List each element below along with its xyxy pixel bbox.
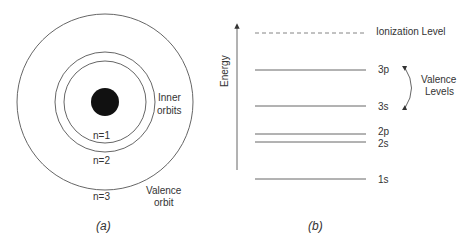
valence-orbit-label-line2: orbit: [154, 197, 174, 208]
diagram-canvas: n=1 n=2 n=3 Inner orbits Valence orbit (…: [0, 0, 469, 244]
level-3p-label: 3p: [378, 64, 390, 75]
caption-a: (a): [96, 219, 111, 233]
energy-axis-label: Energy: [219, 55, 230, 87]
inner-orbits-label-line1: Inner: [158, 92, 181, 103]
level-3s-label: 3s: [378, 101, 389, 112]
inner-orbits-label-line2: orbits: [157, 105, 181, 116]
caption-b: (b): [308, 219, 323, 233]
atom-diagram: n=1 n=2 n=3 Inner orbits Valence orbit (…: [17, 14, 193, 233]
orbit-label-n1: n=1: [93, 130, 110, 141]
valence-orbit-label-line1: Valence: [146, 185, 182, 196]
level-2p-label: 2p: [378, 126, 390, 137]
ionization-level-label: Ionization Level: [376, 26, 446, 37]
nucleus: [91, 88, 119, 116]
level-2s-label: 2s: [378, 138, 389, 149]
level-1s-label: 1s: [378, 174, 389, 185]
valence-levels-label-line2: Levels: [425, 86, 454, 97]
energy-level-diagram: Energy Ionization Level 3p 3s 2p 2s 1s V…: [219, 26, 457, 233]
orbit-label-n2: n=2: [93, 155, 110, 166]
valence-levels-label-line1: Valence: [421, 74, 457, 85]
orbit-label-n3: n=3: [93, 191, 110, 202]
valence-levels-arrow: [405, 68, 412, 108]
